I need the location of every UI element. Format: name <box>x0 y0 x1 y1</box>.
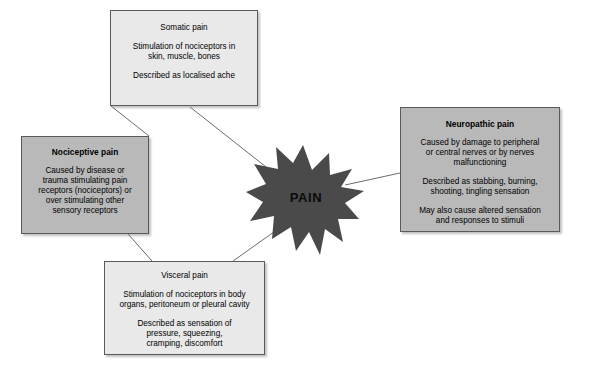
node-neuropathic-line-3: May also cause altered sensationand resp… <box>407 206 553 226</box>
connector-somatic-nociceptive <box>111 106 149 136</box>
node-neuropathic-pain[interactable]: Neuropathic pain Caused by damage to per… <box>400 107 560 232</box>
node-neuropathic-title: Neuropathic pain <box>407 119 553 129</box>
center-starburst[interactable]: PAIN <box>246 139 364 255</box>
connector-nociceptive-visceral <box>128 234 152 261</box>
center-label: PAIN <box>246 139 364 255</box>
node-somatic-pain[interactable]: Somatic pain Stimulation of nociceptors … <box>110 10 258 106</box>
diagram-canvas: Somatic pain Stimulation of nociceptors … <box>0 0 593 368</box>
node-nociceptive-pain[interactable]: Nociceptive pain Caused by disease ortra… <box>21 136 149 234</box>
node-somatic-line-2: Described as localised ache <box>117 71 251 81</box>
node-neuropathic-line-1: Caused by damage to peripheralor central… <box>407 138 553 168</box>
node-nociceptive-line-1: Caused by disease ortrauma stimulating p… <box>28 166 142 216</box>
node-visceral-pain[interactable]: Visceral pain Stimulation of nociceptors… <box>104 261 265 355</box>
node-nociceptive-title: Nociceptive pain <box>28 147 142 157</box>
node-neuropathic-line-2: Described as stabbing, burning,shooting,… <box>407 177 553 197</box>
node-visceral-title: Visceral pain <box>111 271 258 281</box>
node-somatic-title: Somatic pain <box>117 23 251 33</box>
node-somatic-line-1: Stimulation of nociceptors inskin, muscl… <box>117 42 251 62</box>
node-visceral-line-1: Stimulation of nociceptors in bodyorgans… <box>111 290 258 310</box>
node-visceral-line-2: Described as sensation ofpressure, squee… <box>111 319 258 349</box>
